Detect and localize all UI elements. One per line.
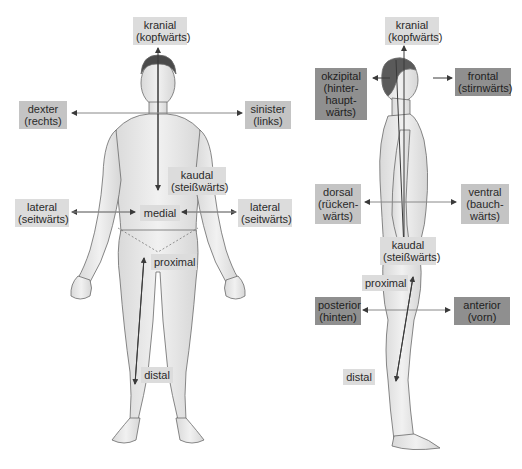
term: medial <box>143 207 177 219</box>
translation: (steißwärts) <box>171 181 223 193</box>
term: kaudal <box>383 239 433 251</box>
translation-line: wärts) <box>318 210 358 222</box>
label-medial: medial <box>140 205 180 221</box>
term: ventral <box>464 186 506 198</box>
translation-line: (rücken- <box>318 198 358 210</box>
label-lateral-left: lateral (seitwärts) <box>15 199 69 227</box>
label-dorsal: dorsal (rücken- wärts) <box>315 184 361 224</box>
translation-line: wärts) <box>464 210 506 222</box>
translation-line: haupt- <box>318 94 364 106</box>
label-anterior: anterior (vorn) <box>454 297 510 325</box>
translation: (kopfwärts) <box>388 31 436 43</box>
label-kaudal-front: kaudal (steißwärts) <box>168 167 226 195</box>
term: anterior <box>457 299 507 311</box>
term: proximal <box>365 277 405 289</box>
translation: (kopfwärts) <box>136 31 184 43</box>
term: okzipital <box>318 70 364 82</box>
label-ventral: ventral (bauch- wärts) <box>461 184 509 224</box>
term: kaudal <box>171 169 223 181</box>
translation-line: (bauch- <box>464 198 506 210</box>
translation: (rechts) <box>22 115 64 127</box>
translation: (seitwärts) <box>241 213 289 225</box>
translation: (stirnwärts) <box>458 82 508 94</box>
term: distal <box>144 369 170 381</box>
anatomical-directions-diagram: kranial (kopfwärts) dexter (rechts) sini… <box>0 0 522 469</box>
label-proximal-side: proximal <box>362 275 408 291</box>
label-sinister: sinister (links) <box>245 101 291 129</box>
term: dorsal <box>318 186 358 198</box>
label-lateral-right: lateral (seitwärts) <box>238 199 292 227</box>
label-distal-front: distal <box>141 367 173 383</box>
label-frontal: frontal (stirnwärts) <box>455 68 511 96</box>
term: kranial <box>136 19 184 31</box>
term: posterior <box>318 299 358 311</box>
translation: (vorn) <box>457 311 507 323</box>
label-dexter: dexter (rechts) <box>19 101 67 129</box>
label-kranial-front: kranial (kopfwärts) <box>133 17 187 45</box>
term: frontal <box>458 70 508 82</box>
label-posterior: posterior (hinten) <box>315 297 361 325</box>
translation: (links) <box>248 115 288 127</box>
label-proximal-front: proximal <box>151 254 197 270</box>
translation-line: wärts) <box>318 106 364 118</box>
translation: (seitwärts) <box>18 213 66 225</box>
term: proximal <box>154 256 194 268</box>
label-distal-side: distal <box>343 369 375 385</box>
term: lateral <box>18 201 66 213</box>
translation-line: (hinter- <box>318 82 364 94</box>
label-kranial-side: kranial (kopfwärts) <box>385 17 439 45</box>
figures-and-arrows <box>0 0 522 469</box>
term: distal <box>346 371 372 383</box>
term: lateral <box>241 201 289 213</box>
term: dexter <box>22 103 64 115</box>
term: kranial <box>388 19 436 31</box>
label-okzipital: okzipital (hinter- haupt- wärts) <box>315 68 367 120</box>
translation: (hinten) <box>318 311 358 323</box>
term: sinister <box>248 103 288 115</box>
translation: (steißwärts) <box>383 251 433 263</box>
label-kaudal-side: kaudal (steißwärts) <box>380 237 436 265</box>
